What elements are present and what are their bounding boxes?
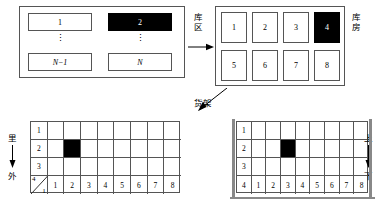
grid-right-cell-r3-c1[interactable] [252, 158, 267, 176]
ellipsis-glyph-left: ⋮ [55, 36, 65, 40]
grid-right-cell-r1-c5[interactable] [310, 122, 325, 140]
grid-left-cell-r1-c4[interactable] [98, 122, 115, 140]
warehouse-room-7[interactable]: 7 [283, 50, 309, 81]
grid-left-cell-r2-c7[interactable] [148, 140, 165, 158]
grid-left-cell-r1-c6[interactable] [131, 122, 148, 140]
zone-cell-n-minus-1[interactable]: N−1 [28, 53, 92, 71]
zone-cell-n[interactable]: N [108, 53, 172, 71]
arrow-down-icon-left [9, 145, 16, 169]
grid-left-cell-r3-c6[interactable] [131, 158, 148, 176]
grid-left-cell-r1-c1[interactable] [48, 122, 65, 140]
warehouse-room-8[interactable]: 8 [314, 50, 340, 81]
grid-left-cell-r3-c5[interactable] [114, 158, 131, 176]
grid-right-row-label-1-text: 1 [242, 126, 246, 135]
warehouse-room-1[interactable]: 1 [221, 12, 247, 43]
grid-left-col-label-6: 6 [131, 176, 148, 194]
grid-right-cell-r2-c2[interactable] [266, 140, 281, 158]
zone-cell-n-minus-1-label: N−1 [53, 58, 68, 67]
grid-left-cell-r2-c1[interactable] [48, 140, 65, 158]
grid-left-col-label-7: 7 [148, 176, 165, 194]
diagram-canvas: 1 2 N−1 N ⋮ ⋮ 库区 12345678 库房 [0, 0, 378, 207]
grid-left-col-label-6-text: 6 [137, 181, 141, 190]
direction-indicator-up-down: 上 下 [360, 133, 376, 181]
grid-left-cell-r1-c8[interactable] [164, 122, 181, 140]
grid-right-col-label-6: 6 [325, 176, 340, 194]
grid-right-cell-r3-c5[interactable] [310, 158, 325, 176]
grid-left-row-label-1: 1 [31, 122, 48, 140]
arrow-zone-to-warehouse-icon [188, 38, 214, 48]
direction-indicator-inner-outer: 里 外 [4, 133, 20, 181]
grid-left-cell-r2-c4[interactable] [98, 140, 115, 158]
rack-arrow-label: 货架 [190, 98, 216, 108]
zone-arrow-label-text: 库区 [194, 12, 203, 32]
grid-right-cell-r3-c4[interactable] [296, 158, 311, 176]
grid-left-cell-r1-c3[interactable] [81, 122, 98, 140]
warehouse-room-4[interactable]: 4 [314, 12, 340, 43]
grid-left-row-label-2: 2 [31, 140, 48, 158]
grid-right-cell-r2-c4[interactable] [296, 140, 311, 158]
grid-right-filled-cell[interactable] [281, 140, 296, 158]
grid-right-cell-r2-c7[interactable] [340, 140, 355, 158]
grid-left-col-label-7-text: 7 [154, 181, 158, 190]
grid-right-cell-r3-c6[interactable] [325, 158, 340, 176]
grid-left-cell-r1-c5[interactable] [114, 122, 131, 140]
grid-right-cell-r1-c1[interactable] [252, 122, 267, 140]
warehouse-room-3[interactable]: 3 [283, 12, 309, 43]
grid-right-col-label-4: 4 [296, 176, 311, 194]
grid-right-cell-r2-c5[interactable] [310, 140, 325, 158]
grid-right-cell-r2-c6[interactable] [325, 140, 340, 158]
shelf-post-right [369, 119, 372, 197]
grid-left-col-label-1: 1 [48, 176, 65, 194]
grid-right-cell-r2-c1[interactable] [252, 140, 267, 158]
grid-left-col-label-1-text: 1 [54, 181, 58, 190]
shelf-post-left [232, 119, 235, 197]
grid-right-col-label-4-text: 4 [301, 181, 305, 190]
grid-left-cell-r3-c2[interactable] [64, 158, 81, 176]
grid-right-row-label-3: 3 [237, 158, 252, 176]
grid-right-cell-r1-c7[interactable] [340, 122, 355, 140]
grid-right-row-label-2: 2 [237, 140, 252, 158]
rack-front-view-grid: 1234112345678 [30, 121, 180, 193]
grid-right-cell-r1-c3[interactable] [281, 122, 296, 140]
grid-left-cell-r3-c1[interactable] [48, 158, 65, 176]
grid-left-row-label-2-text: 2 [37, 144, 41, 153]
grid-right-cell-r1-c4[interactable] [296, 122, 311, 140]
warehouse-room-2-label: 2 [263, 23, 267, 32]
grid-left-col-label-5: 5 [114, 176, 131, 194]
zone-cell-2[interactable]: 2 [108, 13, 172, 31]
grid-right-cell-r3-c2[interactable] [266, 158, 281, 176]
grid-left-cell-r2-c5[interactable] [114, 140, 131, 158]
grid-right-row-label-3-text: 3 [242, 162, 246, 171]
warehouse-label: 库房 [350, 12, 362, 32]
grid-left-corner-bottom-label: 1 [42, 187, 46, 195]
zone-cell-n-label: N [137, 58, 142, 67]
grid-left-col-label-4: 4 [98, 176, 115, 194]
grid-right-cell-r3-c3[interactable] [281, 158, 296, 176]
warehouse-room-6[interactable]: 6 [252, 50, 278, 81]
shelf-base-bar [230, 197, 375, 199]
warehouse-room-2[interactable]: 2 [252, 12, 278, 43]
grid-right-cell-r1-c6[interactable] [325, 122, 340, 140]
warehouse-room-1-label: 1 [232, 23, 236, 32]
warehouse-room-5[interactable]: 5 [221, 50, 247, 81]
grid-left-cell-r2-c3[interactable] [81, 140, 98, 158]
zone-arrow-label: 库区 [192, 12, 204, 32]
grid-left-filled-cell[interactable] [64, 140, 81, 158]
grid-left-cell-r3-c7[interactable] [148, 158, 165, 176]
grid-left-cell-r3-c4[interactable] [98, 158, 115, 176]
grid-left-col-label-3-text: 3 [87, 181, 91, 190]
grid-left-cell-r3-c8[interactable] [164, 158, 181, 176]
grid-right-cell-r3-c7[interactable] [340, 158, 355, 176]
grid-left-cell-r1-c7[interactable] [148, 122, 165, 140]
zone-cell-1[interactable]: 1 [28, 13, 92, 31]
grid-left-cell-r2-c6[interactable] [131, 140, 148, 158]
grid-left-col-label-2-text: 2 [70, 181, 74, 190]
zone-cell-1-label: 1 [58, 18, 62, 27]
grid-left-cell-r3-c3[interactable] [81, 158, 98, 176]
grid-left-cell-r2-c8[interactable] [164, 140, 181, 158]
grid-left-col-label-2: 2 [64, 176, 81, 194]
zone-cell-2-label: 2 [138, 18, 142, 27]
grid-right-cell-r1-c2[interactable] [266, 122, 281, 140]
grid-left-cell-r1-c2[interactable] [64, 122, 81, 140]
warehouse-room-4-label: 4 [325, 23, 329, 32]
